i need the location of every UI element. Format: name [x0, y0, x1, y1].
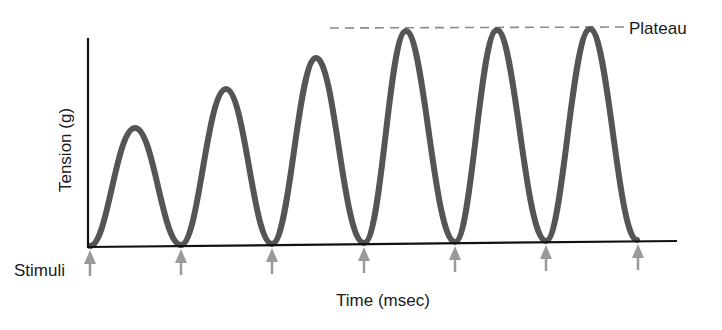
stimulus-arrows: [84, 244, 644, 276]
tension-curve: [90, 29, 637, 246]
stimulus-arrow-icon: [266, 248, 278, 274]
stimulus-arrow-icon: [358, 247, 370, 273]
stimulus-arrow-icon: [84, 250, 96, 276]
stimulus-arrow-icon: [449, 246, 461, 272]
y-axis-label: Tension (g): [56, 108, 75, 192]
stimulus-arrow-icon: [175, 249, 187, 275]
stimulus-arrow-icon: [540, 245, 552, 271]
plateau-label: Plateau: [629, 19, 687, 38]
stimuli-label: Stimuli: [14, 261, 65, 280]
treppe-diagram: Plateau Tension (g) Stimuli Time (msec): [0, 0, 722, 330]
plateau-line: [330, 27, 624, 28]
x-axis-label: Time (msec): [336, 291, 430, 310]
stimulus-arrow-icon: [632, 244, 644, 270]
